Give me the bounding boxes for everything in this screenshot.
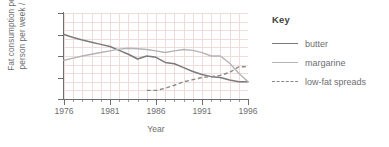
legend-item-margarine: margarine [272,53,386,72]
legend-label-low-fat-spreads: low-fat spreads [305,77,366,87]
x-axis-tick-minor [138,100,139,103]
legend-swatch-margarine-icon [272,58,298,68]
x-axis-tick-minor [128,100,129,103]
x-axis-tick-minor [220,100,221,103]
x-axis-tick-minor [73,100,74,103]
x-axis-title: Year [64,124,248,134]
x-axis-tick-major [248,100,249,105]
legend-item-low-fat-spreads: low-fat spreads [272,72,386,91]
x-axis-tick-minor [239,100,240,103]
legend-title: Key [272,14,386,25]
legend-label-margarine: margarine [305,58,346,68]
chart-legend: Key butter margarine low-fat spreads [272,14,386,91]
x-axis-tick-minor [119,100,120,103]
x-axis-tick-minor [82,100,83,103]
legend-swatch-butter-icon [272,39,298,49]
x-axis-tick-label: 1986 [136,106,176,116]
line-chart: Fat consumption per person per week / g … [0,0,262,147]
chart-figure: Fat consumption per person per week / g … [0,0,389,147]
x-axis-tick-major [110,100,111,105]
y-axis-tick [58,35,64,36]
x-axis-tick-major [156,100,157,105]
y-axis-tick [58,56,64,57]
legend-swatch-low-fat-spreads-icon [272,77,298,87]
x-axis-tick-minor [147,100,148,103]
y-axis-title-line1: Fat consumption per [7,0,16,71]
x-axis-tick-label: 1991 [182,106,222,116]
x-axis-tick-label: 1996 [228,106,268,116]
x-axis-tick-major [202,100,203,105]
x-axis-tick-major [64,100,65,105]
x-axis-tick-minor [165,100,166,103]
series-layer [64,13,248,99]
x-axis-tick-minor [184,100,185,103]
legend-label-butter: butter [305,39,328,49]
x-axis-tick-minor [174,100,175,103]
x-axis-tick-label: 1976 [44,106,84,116]
y-axis-title-line2: person per week / g [17,0,26,69]
x-axis-tick-minor [193,100,194,103]
x-axis-tick-minor [92,100,93,103]
series-line-low-fat-spreads [147,67,248,91]
y-axis-title: Fat consumption per person per week / g [7,0,28,86]
legend-item-butter: butter [272,34,386,53]
x-axis-tick-label: 1981 [90,106,130,116]
x-axis-tick-minor [211,100,212,103]
y-axis-tick [58,13,64,14]
x-axis-tick-minor [101,100,102,103]
x-axis-tick-minor [230,100,231,103]
y-axis-tick [58,78,64,79]
